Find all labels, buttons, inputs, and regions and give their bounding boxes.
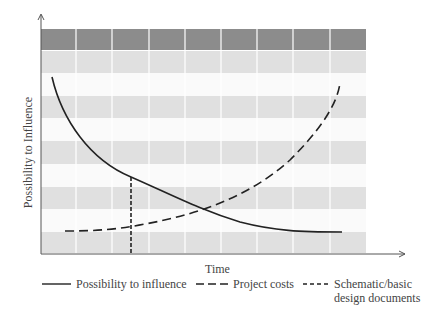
background-bands bbox=[41, 29, 366, 253]
y-axis-label: Possibility to Influence bbox=[21, 73, 36, 233]
legend-design-docs-line2: design documents bbox=[334, 291, 420, 305]
legend-design-docs-line1: Schematic/basic bbox=[334, 277, 420, 291]
legend-project-costs: Project costs bbox=[233, 277, 294, 291]
legend-influence: Possibility to influence bbox=[76, 277, 187, 291]
legend-design-docs: Schematic/basic design documents bbox=[334, 277, 420, 305]
x-axis-label: Time bbox=[205, 262, 230, 277]
